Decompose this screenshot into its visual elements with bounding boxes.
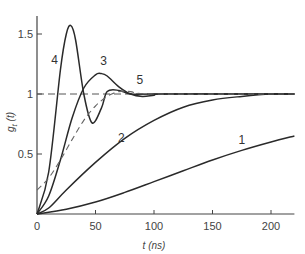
y-tick-label: 1.5	[18, 28, 33, 40]
curve-label-4: 4	[51, 53, 58, 67]
x-tick-label: 100	[145, 220, 163, 232]
x-tick-label: 200	[262, 220, 280, 232]
curve-1	[37, 136, 294, 214]
curve-label-1: 1	[238, 133, 245, 147]
curve-label-5: 5	[137, 73, 144, 87]
y-tick-label: 1	[27, 88, 33, 100]
curve-2	[37, 94, 294, 214]
x-tick-label: 50	[89, 220, 101, 232]
curve-label-2: 2	[118, 131, 125, 145]
x-tick-label: 150	[203, 220, 221, 232]
curve-label-3: 3	[100, 54, 107, 68]
y-axis-label: gt (t)	[5, 112, 19, 132]
x-tick-label: 0	[34, 220, 40, 232]
y-tick-label: 0.5	[18, 148, 33, 160]
curve-4	[37, 25, 294, 214]
x-axis-label: t (ns)	[143, 240, 166, 251]
chart: 0501001502000.511.512345t (ns)gt (t)	[0, 0, 305, 254]
